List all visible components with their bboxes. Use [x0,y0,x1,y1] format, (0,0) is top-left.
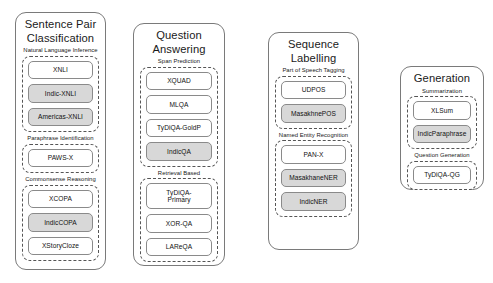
dataset-chip-indicqa[interactable]: IndicQA [146,142,212,161]
panel-title: Sequence Labelling [288,38,339,65]
dataset-chip-xnli[interactable]: XNLI [28,61,93,80]
dataset-chip-xcopa[interactable]: XCOPA [28,190,93,209]
task-panel-question-answering: Question Answering Span Prediction XQUAD… [133,23,225,266]
group-label-part-of-speech-tagging: Part of Speech Tagging [282,67,344,74]
subtask-group-question-generation: TyDiQA-QG [407,161,477,191]
group-label-commonsense-reasoning: Commonsense Reasoning [25,176,95,183]
subtask-group-commonsense-reasoning: XCOPA IndicCOPA XStoryCloze [22,185,99,262]
group-label-span-prediction: Span Prediction [158,58,200,65]
subtask-group-span-prediction: XQUAD MLQA TyDiQA-GoldP IndicQA [140,67,218,167]
dataset-chip-pan-x[interactable]: PAN-X [281,145,346,164]
panel-title: Question Answering [152,29,205,56]
subtask-group-retrieval-based: TyDiQA- Primary XOR-QA LAReQA [140,178,218,262]
dataset-chip-lareqa[interactable]: LAReQA [146,238,212,257]
taxonomy-diagram: Sentence Pair Classification Natural Lan… [0,0,493,283]
group-label-summarization: Summarization [422,88,462,95]
dataset-chip-tydiqa-goldp[interactable]: TyDiQA-GoldP [146,119,212,138]
dataset-chip-indicparaphrase[interactable]: IndicParaphrase [413,125,471,144]
subtask-group-named-entity-recognition: PAN-X MasakhaneNER IndicNER [275,140,352,217]
subtask-group-part-of-speech-tagging: UDPOS MasakhnePOS [275,76,352,129]
group-label-paraphrase-identification: Paraphrase Identification [27,135,93,142]
dataset-chip-americas-xnli[interactable]: Americas-XNLI [28,108,93,127]
task-panel-sentence-pair-classification: Sentence Pair Classification Natural Lan… [15,12,106,270]
group-label-question-generation: Question Generation [414,152,469,159]
dataset-chip-udpos[interactable]: UDPOS [281,81,346,100]
subtask-group-summarization: XLSum IndicParaphrase [407,96,477,149]
dataset-chip-paws-x[interactable]: PAWS-X [28,149,93,168]
dataset-chip-indiccopa[interactable]: IndicCOPA [28,213,93,232]
dataset-chip-indicner[interactable]: IndicNER [281,192,346,211]
subtask-group-natural-language-inference: XNLI Indic-XNLI Americas-XNLI [22,56,99,133]
task-panel-sequence-labelling: Sequence Labelling Part of Speech Taggin… [268,32,359,250]
dataset-chip-indic-xnli[interactable]: Indic-XNLI [28,84,93,103]
dataset-chip-xlsum[interactable]: XLSum [413,101,471,120]
panel-title: Generation [414,72,470,86]
subtask-group-paraphrase-identification: PAWS-X [22,144,99,174]
dataset-chip-masakhaner[interactable]: MasakhaneNER [281,169,346,188]
dataset-chip-xor-qa[interactable]: XOR-QA [146,214,212,233]
dataset-chip-xquad[interactable]: XQUAD [146,72,212,91]
group-label-named-entity-recognition: Named Entity Recognition [279,132,348,139]
dataset-chip-mlqa[interactable]: MLQA [146,95,212,114]
dataset-chip-masakhnepos[interactable]: MasakhnePOS [281,104,346,123]
task-panel-generation: Generation Summarization XLSum IndicPara… [400,66,484,190]
group-label-natural-language-inference: Natural Language Inference [23,47,97,54]
dataset-chip-tydiqa-qg[interactable]: TyDiQA-QG [413,166,471,185]
dataset-chip-xstorycloze[interactable]: XStoryCloze [28,237,93,256]
dataset-chip-tydiqa-primary[interactable]: TyDiQA- Primary [146,183,212,209]
panel-title: Sentence Pair Classification [25,18,97,45]
group-label-retrieval-based: Retrieval Based [158,170,200,177]
